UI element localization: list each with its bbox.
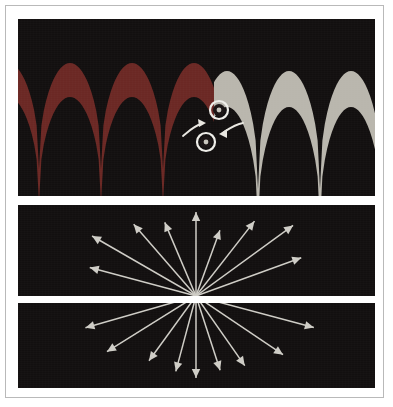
ray-arrowhead bbox=[236, 356, 245, 366]
ray-line bbox=[196, 230, 220, 296]
ray-line bbox=[149, 303, 196, 361]
ray-arrowhead bbox=[273, 346, 283, 355]
upward-ray-diagram bbox=[18, 205, 375, 296]
upper-node-marker-dot bbox=[217, 108, 222, 113]
ray-arrowhead bbox=[174, 362, 182, 372]
ray-arrowhead bbox=[192, 369, 200, 378]
interference-wave-panel bbox=[18, 19, 375, 196]
ray-line bbox=[176, 303, 196, 371]
wave-diagram bbox=[18, 19, 375, 196]
ray-arrowhead bbox=[192, 212, 200, 221]
ray-line bbox=[196, 225, 293, 296]
ray-arrowhead bbox=[283, 225, 293, 234]
ray-arrowhead bbox=[291, 257, 301, 265]
ray-arrowhead bbox=[90, 266, 100, 274]
ray-line bbox=[90, 268, 196, 296]
ray-line bbox=[92, 236, 196, 296]
ray-arrowhead bbox=[304, 321, 314, 329]
downward-ray-diagram bbox=[18, 303, 375, 388]
ray-arrowhead bbox=[246, 221, 255, 231]
ray-line bbox=[134, 224, 196, 296]
ray-line bbox=[165, 222, 196, 296]
ray-line bbox=[196, 303, 314, 328]
ray-arrowhead bbox=[213, 360, 221, 370]
left-curved-arrow-head bbox=[198, 119, 206, 127]
left-curved-arrow bbox=[183, 124, 201, 136]
ray-arrowhead bbox=[107, 343, 117, 351]
lower-node-marker-dot bbox=[204, 140, 209, 145]
ray-arrowhead bbox=[213, 230, 221, 240]
upward-ray-burst-panel bbox=[18, 205, 375, 296]
figure-page bbox=[0, 0, 393, 407]
right-curved-arrow-head bbox=[219, 129, 227, 138]
ray-arrowhead bbox=[149, 351, 158, 361]
downward-ray-burst-panel bbox=[18, 303, 375, 388]
ray-line bbox=[196, 303, 283, 355]
